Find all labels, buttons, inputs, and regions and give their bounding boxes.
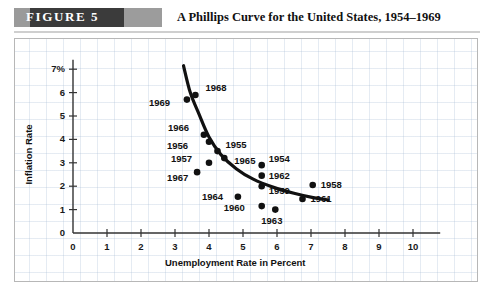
x-axis-title: Unemployment Rate in Percent [165, 257, 305, 268]
x-tick-label: 6 [268, 241, 286, 252]
data-point [214, 148, 221, 155]
data-point-label: 1967 [167, 172, 188, 183]
x-tick-label: 0 [64, 241, 82, 252]
chart-panel: Inflation Rate Unemployment Rate in Perc… [14, 38, 478, 282]
y-axis-title: Inflation Rate [23, 124, 34, 184]
data-point-label: 1954 [269, 153, 290, 164]
data-point [309, 182, 316, 189]
data-point [184, 96, 191, 103]
axes-layer [69, 60, 440, 237]
x-tick-label: 5 [234, 241, 252, 252]
figure-title: A Phillips Curve for the United States, … [177, 10, 441, 25]
y-tick-label: 7% [43, 63, 65, 74]
data-point-label: 1960 [224, 202, 245, 213]
x-tick-label: 8 [336, 241, 354, 252]
y-tick-label: 0 [43, 227, 65, 238]
x-tick-label: 9 [370, 241, 388, 252]
data-point [258, 183, 265, 190]
y-tick-label: 2 [43, 180, 65, 191]
data-point [272, 206, 279, 213]
data-point [194, 169, 201, 176]
data-point-label: 1959 [269, 185, 290, 196]
x-tick-label: 7 [302, 241, 320, 252]
y-tick-label: 6 [43, 87, 65, 98]
data-point-label: 1962 [269, 170, 290, 181]
data-point [206, 160, 213, 167]
data-point [221, 155, 228, 162]
data-point [235, 193, 242, 200]
data-point [201, 131, 208, 138]
y-tick-label: 5 [43, 110, 65, 121]
data-point-label: 1964 [202, 191, 223, 202]
x-tick-label: 1 [98, 241, 116, 252]
x-tick-label: 2 [132, 241, 150, 252]
data-point-label: 1955 [226, 139, 247, 150]
y-tick-label: 3 [43, 157, 65, 168]
data-point-label: 1963 [261, 215, 282, 226]
data-point-label: 1969 [149, 97, 170, 108]
data-point-label: 1958 [321, 179, 342, 190]
data-point-label: 1956 [167, 140, 188, 151]
data-point [206, 138, 213, 145]
y-tick-label: 4 [43, 133, 65, 144]
data-point-label: 1957 [171, 153, 192, 164]
figure-badge-label: FIGURE 5 [26, 9, 99, 25]
x-tick-label: 10 [404, 241, 422, 252]
x-tick-label: 4 [200, 241, 218, 252]
data-point-label: 1965 [234, 155, 255, 166]
data-point [258, 172, 265, 179]
data-point [299, 196, 306, 203]
figure-header: FIGURE 5 A Phillips Curve for the United… [0, 0, 494, 34]
data-point [258, 162, 265, 169]
data-point-label: 1966 [168, 122, 189, 133]
x-tick-label: 3 [166, 241, 184, 252]
data-point-label: 1961 [311, 193, 332, 204]
data-point [258, 203, 265, 210]
header-divider [14, 31, 480, 33]
data-point [192, 92, 199, 99]
y-tick-label: 1 [43, 204, 65, 215]
data-point-label: 1968 [205, 82, 226, 93]
